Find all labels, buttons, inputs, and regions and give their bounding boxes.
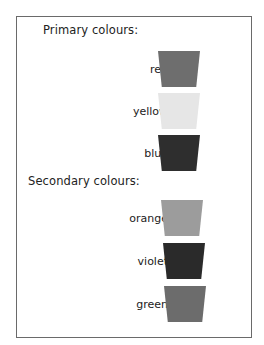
colour-swatch bbox=[158, 51, 200, 87]
colour-label: orange bbox=[129, 212, 168, 225]
colour-swatch bbox=[164, 286, 206, 322]
colour-row-red: red bbox=[17, 51, 253, 87]
colour-row-blue: blue bbox=[17, 135, 253, 171]
colour-swatch bbox=[161, 200, 203, 236]
colour-row-violet: violet bbox=[17, 243, 253, 279]
colour-swatch bbox=[163, 243, 205, 279]
colour-label: green bbox=[136, 298, 168, 311]
colour-swatch bbox=[158, 135, 200, 171]
colour-swatch bbox=[158, 93, 200, 129]
colour-label: violet bbox=[138, 255, 168, 268]
colour-row-green: green bbox=[17, 286, 253, 322]
colour-row-yellow: yellow bbox=[17, 93, 253, 129]
colour-chart-frame: Primary colours: red yellow blue Seconda… bbox=[16, 16, 252, 338]
colour-row-orange: orange bbox=[17, 200, 253, 236]
primary-colours-heading: Primary colours: bbox=[43, 23, 138, 37]
secondary-colours-heading: Secondary colours: bbox=[28, 174, 140, 188]
